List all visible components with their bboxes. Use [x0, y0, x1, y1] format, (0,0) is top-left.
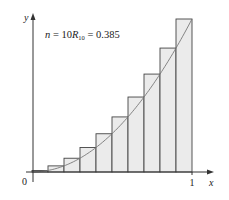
x-axis-arrow-icon	[207, 170, 214, 175]
bar-7	[128, 97, 144, 172]
r-equals: =	[85, 29, 96, 40]
x-tick-label-1: 1	[190, 177, 195, 188]
x-tick-label-0: 0	[22, 176, 27, 187]
bar-4	[80, 148, 96, 172]
y-axis-arrow-icon	[31, 13, 36, 20]
x-axis-label: x	[208, 177, 214, 188]
y-axis-label: y	[23, 12, 29, 23]
bar-9	[160, 48, 176, 172]
n-value: 10	[61, 29, 72, 40]
bar-10	[176, 19, 192, 172]
annotation: n = 10R10 = 0.385	[45, 29, 120, 41]
riemann-sum-chart: y x 0 1 n = 10R10 = 0.385	[0, 0, 229, 200]
bar-5	[96, 134, 112, 172]
bar-8	[144, 74, 160, 172]
n-equals: =	[50, 29, 61, 40]
bars-group	[32, 19, 192, 172]
r-value: 0.385	[96, 29, 120, 40]
